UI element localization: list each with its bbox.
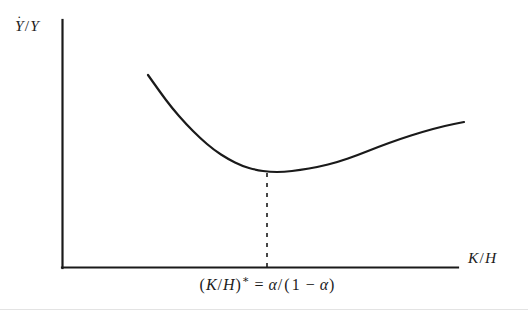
ann-alpha-numerator: α [268, 276, 276, 293]
y-label-denominator: Y [30, 17, 39, 34]
ann-k: K [206, 276, 217, 293]
y-dot-glyph: ̇Y [15, 18, 24, 34]
x-axis-label: K/H [468, 250, 496, 266]
ann-rhs-slash: / [277, 276, 283, 293]
star-superscript: ∗ [242, 273, 249, 285]
rhs-paren-open: ( [283, 276, 290, 293]
plot-canvas [0, 0, 528, 311]
ann-h: H [223, 276, 235, 293]
ann-one: 1 [291, 276, 301, 293]
x-label-denominator: H [485, 249, 496, 266]
optimum-annotation-text: (K/H)∗ = α/(1 − α) [199, 274, 336, 294]
growth-rate-curve [148, 75, 464, 172]
x-label-numerator: K [468, 249, 479, 266]
equals-sign: = [249, 276, 268, 293]
minus-sign: − [301, 276, 320, 293]
figure-root: ̇Y/Y K/H (K/H)∗ = α/(1 − α) [0, 0, 528, 311]
scan-edge-artifact [0, 309, 528, 310]
y-axis-label: ̇Y/Y [15, 18, 39, 34]
rhs-paren-close: ) [328, 276, 335, 293]
optimum-annotation: (K/H)∗ = α/(1 − α) [0, 274, 528, 294]
